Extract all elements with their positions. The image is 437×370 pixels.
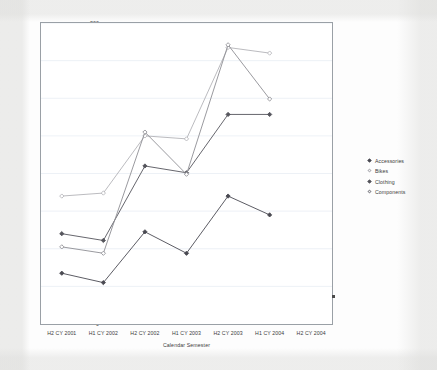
data-point-marker (60, 232, 64, 236)
legend-item-clothing[interactable]: Clothing (368, 179, 405, 185)
chart-container: 8007006005004003002001000 H2 CY 2001H1 C… (0, 0, 437, 370)
series-bikes (60, 45, 272, 198)
series-line (62, 196, 270, 283)
data-point-marker (268, 112, 272, 116)
series-clothing (60, 112, 272, 242)
diamond-marker-icon (368, 190, 372, 194)
series-accessories (60, 194, 272, 285)
series-line (62, 45, 270, 253)
legend-item-label: Components (375, 189, 405, 195)
data-point-marker (101, 251, 105, 255)
diamond-marker-icon (368, 169, 372, 173)
data-point-marker (60, 271, 64, 275)
plot-area (40, 22, 333, 325)
stray-artifact-mark (332, 295, 335, 298)
legend-item-accessories[interactable]: Accessories (368, 158, 405, 164)
series-line (62, 114, 270, 240)
x-axis-title: Calendar Semester (0, 342, 373, 348)
data-point-marker (268, 51, 272, 55)
data-point-marker (101, 238, 105, 242)
legend-item-label: Bikes (375, 168, 388, 174)
data-point-marker (184, 137, 188, 141)
diamond-marker-icon (368, 159, 372, 163)
legend-item-components[interactable]: Components (368, 189, 405, 195)
data-point-marker (60, 194, 64, 198)
data-point-marker (143, 164, 147, 168)
legend-item-bikes[interactable]: Bikes (368, 168, 405, 174)
legend-item-label: Accessories (375, 158, 404, 164)
data-point-marker (268, 213, 272, 217)
legend-item-label: Clothing (375, 179, 395, 185)
plot-svg (41, 23, 332, 324)
diamond-marker-icon (368, 180, 372, 184)
chart-legend: AccessoriesBikesClothingComponents (368, 158, 405, 195)
x-axis-tick-6: H2 CY 2004 (284, 330, 338, 336)
series-components (60, 43, 272, 256)
